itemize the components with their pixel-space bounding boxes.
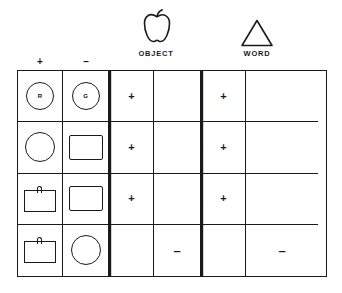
response-mark: – (278, 245, 285, 256)
stimulus-cell-positive (18, 225, 63, 276)
word-response-cell: – (246, 225, 318, 276)
object-response-cell (154, 174, 201, 225)
stimulus-cell-positive (18, 122, 63, 173)
stimulus-cell-negative (63, 174, 109, 225)
triangle-icon (209, 16, 305, 48)
word-response-cell (201, 225, 246, 276)
stimulus-cell-positive (18, 174, 63, 225)
word-caption: WORD (209, 49, 305, 59)
object-column-header: OBJECT (108, 6, 204, 59)
pot-body (24, 190, 56, 212)
stimulus-cell-positive: R (18, 71, 63, 122)
positive-stimulus-header: + (17, 57, 63, 67)
apple-icon (108, 6, 204, 48)
response-mark: + (220, 193, 226, 204)
response-mark: + (128, 91, 134, 102)
word-response-cell (246, 122, 318, 173)
response-mark: + (220, 91, 226, 102)
word-response-cell (246, 71, 318, 122)
object-caption: OBJECT (108, 49, 204, 59)
circle-letter-shape: G (72, 82, 100, 110)
response-mark: – (173, 245, 180, 256)
object-response-cell (154, 71, 201, 122)
object-response-cell (109, 225, 154, 276)
stimulus-cell-negative: G (63, 71, 109, 122)
response-grid: R G + + + (17, 70, 327, 277)
shape-letter: G (83, 93, 88, 99)
circle-shape (25, 132, 55, 162)
pot-shape (24, 186, 56, 212)
stimulus-cell-negative (63, 122, 109, 173)
shape-letter: R (38, 93, 42, 99)
stimulus-cell-negative (63, 225, 109, 276)
object-response-cell (154, 122, 201, 173)
stimulus-response-figure: OBJECT WORD + – R G + (0, 0, 342, 293)
rectangle-shape (69, 186, 103, 211)
word-response-cell (246, 174, 318, 225)
object-response-cell: + (109, 122, 154, 173)
object-response-cell: + (109, 71, 154, 122)
rectangle-shape (69, 135, 103, 160)
word-response-cell: + (201, 71, 246, 122)
circle-shape (71, 235, 101, 265)
response-mark: + (128, 193, 134, 204)
response-mark: + (220, 142, 226, 153)
negative-stimulus-header: – (63, 57, 109, 67)
response-mark: + (128, 142, 134, 153)
word-response-cell: + (201, 174, 246, 225)
circle-letter-shape: R (26, 82, 54, 110)
pot-body (24, 241, 56, 263)
object-response-cell: – (154, 225, 201, 276)
pot-shape (24, 237, 56, 263)
object-response-cell: + (109, 174, 154, 225)
word-response-cell: + (201, 122, 246, 173)
word-column-header: WORD (209, 16, 305, 59)
